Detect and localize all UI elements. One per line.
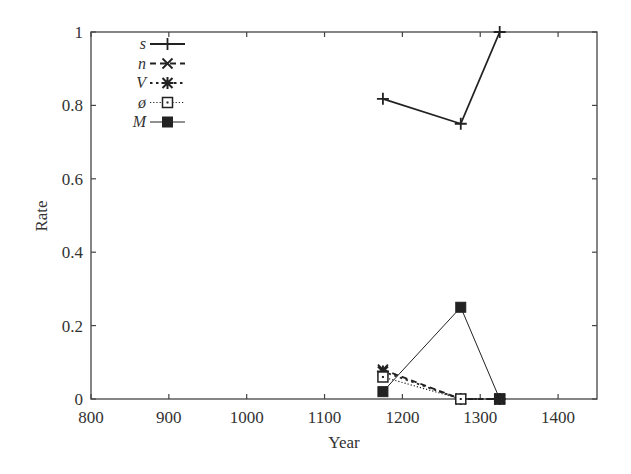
- y-tick-label: 0: [75, 390, 84, 409]
- legend-label: V: [136, 74, 148, 91]
- y-tick-label: 0.6: [62, 170, 83, 189]
- y-tick-label: 0.4: [62, 243, 84, 262]
- legend-item: M: [132, 113, 185, 130]
- series-layer: [377, 26, 506, 405]
- legend-item: ø: [137, 94, 185, 111]
- x-tick-label: 800: [78, 408, 104, 427]
- plus-marker-icon: [494, 26, 506, 38]
- legend-label: n: [138, 55, 146, 72]
- legend-item: V: [136, 74, 185, 91]
- plus-marker-icon: [377, 93, 389, 105]
- filled-square-marker-icon: [495, 394, 505, 404]
- series-line: [383, 377, 500, 399]
- y-tick-label: 0.2: [62, 317, 83, 336]
- x-axis-title: Year: [328, 433, 360, 452]
- x-tick-label: 1100: [308, 408, 341, 427]
- x-tick-label: 1200: [385, 408, 419, 427]
- x-tick-label: 1300: [463, 408, 497, 427]
- series-line: [383, 370, 500, 399]
- series-line: [383, 371, 500, 399]
- star-marker-icon: [162, 77, 174, 89]
- square-center-dot: [382, 376, 384, 378]
- square-center-dot: [167, 102, 169, 104]
- series-line: [383, 307, 500, 399]
- filled-square-marker-icon: [456, 302, 466, 312]
- plus-marker-icon: [455, 118, 467, 130]
- x-tick-label: 900: [156, 408, 182, 427]
- y-tick-label: 1: [75, 23, 84, 42]
- x-tick-label: 1000: [230, 408, 264, 427]
- filled-square-marker-icon: [378, 387, 388, 397]
- filled-square-marker-icon: [163, 117, 173, 127]
- series-1: [378, 365, 505, 404]
- square-center-dot: [460, 398, 462, 400]
- legend-label: s: [140, 35, 146, 52]
- series-4: [378, 302, 505, 404]
- y-axis-title: Rate: [32, 200, 51, 231]
- series-0: [377, 26, 506, 130]
- legend-item: n: [138, 55, 185, 72]
- series-line: [383, 32, 500, 124]
- y-tick-label: 0.8: [62, 96, 83, 115]
- legend-label: M: [132, 113, 148, 130]
- line-chart: 80090010001100120013001400 00.20.40.60.8…: [0, 0, 631, 474]
- legend-label: ø: [137, 94, 147, 111]
- x-axis: 80090010001100120013001400: [78, 32, 575, 427]
- legend-item: s: [140, 35, 185, 52]
- x-tick-label: 1400: [541, 408, 575, 427]
- legend: snVøM: [132, 35, 185, 130]
- plus-marker-icon: [162, 38, 174, 50]
